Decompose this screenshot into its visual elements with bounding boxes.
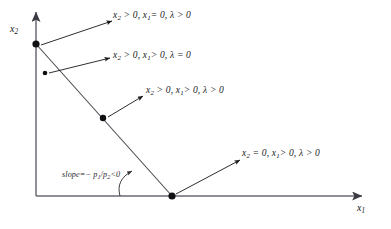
diagram-svg [0, 0, 391, 229]
arrow-to-case-4 [176, 160, 240, 194]
x-axis-label: x1 [357, 203, 365, 215]
case-label-interior: x2 > 0, x1> 0, λ > 0 [146, 86, 224, 97]
arrow-to-case-1 [41, 21, 112, 45]
point-on-y-axis [32, 40, 39, 47]
y-axis-label: x2 [10, 24, 18, 36]
slope-pointer-curved-arrow [119, 171, 132, 196]
arrow-to-case-3 [108, 96, 143, 117]
slope-annotation-label: slope=− p1/p2<0 [62, 171, 120, 180]
point-interior [43, 71, 48, 76]
arrow-to-case-2 [49, 58, 110, 73]
case-label-x1-zero: x2 > 0, x1= 0, λ > 0 [113, 11, 191, 22]
point-on-line [100, 115, 106, 121]
case-label-x2-zero: x2 = 0, x1> 0, λ > 0 [242, 149, 320, 160]
point-on-x-axis [168, 192, 175, 199]
case-label-lambda-zero: x2 > 0, x1> 0, λ = 0 [113, 51, 191, 62]
figure-canvas: x2 x1 x2 > 0, x1= 0, λ > 0 x2 > 0, x1> 0… [0, 0, 391, 229]
